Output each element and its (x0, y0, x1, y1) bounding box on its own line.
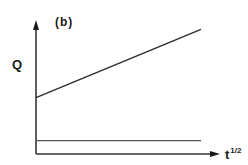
x-axis-label-base: t (225, 147, 229, 162)
series-increasing-line (36, 29, 201, 97)
x-axis-label-exponent: 1/2 (230, 146, 241, 155)
y-axis-arrow-icon (33, 20, 39, 30)
panel-label: (b) (55, 16, 73, 28)
chart-canvas (0, 0, 248, 165)
y-axis-label: Q (12, 58, 22, 71)
x-axis-arrow-icon (210, 151, 220, 157)
x-axis-label: t1/2 (225, 147, 241, 161)
